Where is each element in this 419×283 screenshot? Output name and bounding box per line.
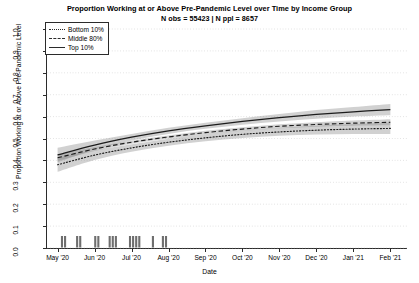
- legend-line-swatch-icon: [49, 35, 65, 42]
- chart-container: Proportion Working at or Above Pre-Pande…: [0, 0, 419, 283]
- legend: Bottom 10%Middle 80%Top 10%: [45, 22, 109, 55]
- legend-line-swatch-icon: [49, 26, 65, 33]
- legend-item: Bottom 10%: [49, 25, 104, 34]
- legend-label: Middle 80%: [68, 35, 102, 42]
- legend-label: Bottom 10%: [68, 26, 104, 33]
- legend-item: Top 10%: [49, 43, 104, 52]
- legend-item: Middle 80%: [49, 34, 104, 43]
- legend-label: Top 10%: [68, 44, 94, 51]
- legend-line-swatch-icon: [49, 44, 65, 51]
